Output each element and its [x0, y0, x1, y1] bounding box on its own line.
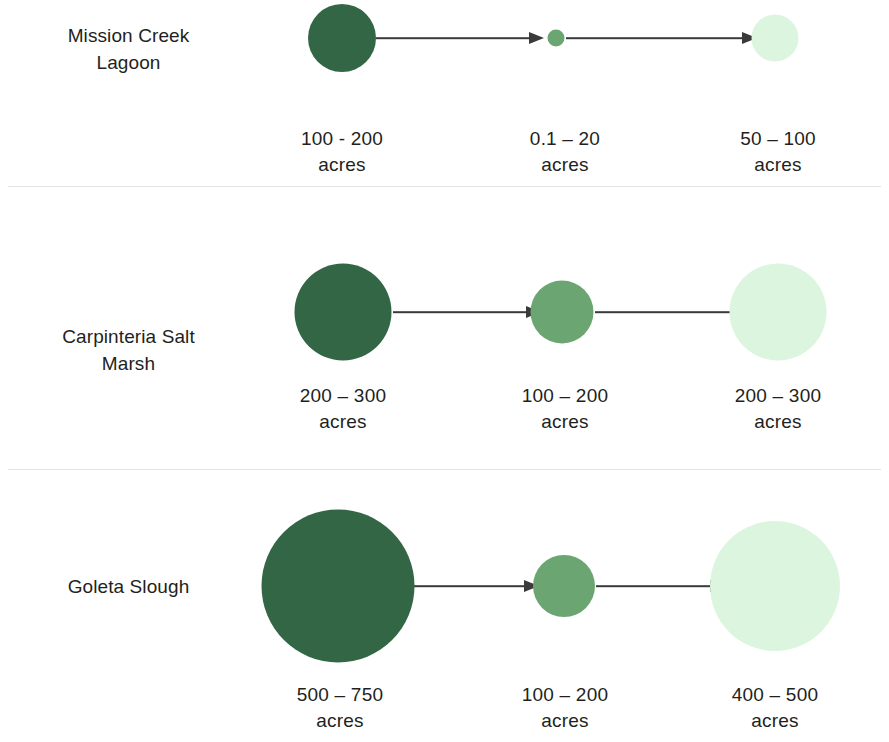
- bubble-historic-extent: [262, 510, 415, 663]
- bubble-potential-extent: [710, 521, 840, 651]
- caption-potential-extent: 50 – 100 acres: [740, 126, 816, 178]
- caption-unit: acres: [735, 409, 821, 435]
- bubble-current-extent: [548, 30, 565, 47]
- bubble-current-extent: [533, 555, 595, 617]
- caption-value: 500 – 750: [297, 682, 383, 708]
- bubble-potential-extent: [730, 264, 827, 361]
- arrowhead-stage1-to-stage2: [529, 32, 544, 44]
- connector-stage2-to-stage3: [596, 585, 715, 587]
- caption-historic-extent: 500 – 750 acres: [297, 682, 383, 734]
- bubble-historic-extent: [295, 264, 392, 361]
- caption-unit: acres: [301, 152, 383, 178]
- caption-current-extent: 100 – 200 acres: [522, 383, 608, 435]
- bubble-current-extent: [531, 281, 594, 344]
- row-goleta-slough: Goleta Slough 500 – 750 acres 100 – 200 …: [0, 470, 889, 742]
- row-label-mission-creek-lagoon: Mission Creek Lagoon: [16, 22, 241, 76]
- caption-value: 200 – 300: [735, 383, 821, 409]
- caption-potential-extent: 200 – 300 acres: [735, 383, 821, 435]
- caption-current-extent: 0.1 – 20 acres: [530, 126, 600, 178]
- caption-value: 400 – 500: [732, 682, 818, 708]
- caption-unit: acres: [732, 708, 818, 734]
- caption-historic-extent: 200 – 300 acres: [300, 383, 386, 435]
- caption-unit: acres: [522, 708, 608, 734]
- connector-stage1-to-stage2: [393, 311, 532, 313]
- connector-stage1-to-stage2: [376, 37, 534, 39]
- caption-potential-extent: 400 – 500 acres: [732, 682, 818, 734]
- caption-value: 100 - 200: [301, 126, 383, 152]
- wetland-acreage-infographic: Mission Creek Lagoon 100 - 200 acres 0.1…: [0, 0, 889, 742]
- row-label-carpinteria-salt-marsh: Carpinteria Salt Marsh: [16, 323, 241, 377]
- bubble-historic-extent: [308, 4, 376, 72]
- row-carpinteria-salt-marsh: Carpinteria Salt Marsh 200 – 300 acres 1…: [0, 187, 889, 470]
- connector-stage2-to-stage3: [566, 37, 747, 39]
- caption-unit: acres: [530, 152, 600, 178]
- caption-value: 0.1 – 20: [530, 126, 600, 152]
- caption-value: 100 – 200: [522, 682, 608, 708]
- caption-unit: acres: [522, 409, 608, 435]
- connector-stage1-to-stage2: [414, 585, 531, 587]
- row-label-goleta-slough: Goleta Slough: [16, 573, 241, 600]
- caption-value: 100 – 200: [522, 383, 608, 409]
- caption-value: 200 – 300: [300, 383, 386, 409]
- caption-current-extent: 100 – 200 acres: [522, 682, 608, 734]
- caption-historic-extent: 100 - 200 acres: [301, 126, 383, 178]
- caption-unit: acres: [740, 152, 816, 178]
- bubble-potential-extent: [752, 15, 799, 62]
- caption-value: 50 – 100: [740, 126, 816, 152]
- caption-unit: acres: [300, 409, 386, 435]
- row-mission-creek-lagoon: Mission Creek Lagoon 100 - 200 acres 0.1…: [0, 0, 889, 187]
- connector-stage2-to-stage3: [595, 311, 740, 313]
- caption-unit: acres: [297, 708, 383, 734]
